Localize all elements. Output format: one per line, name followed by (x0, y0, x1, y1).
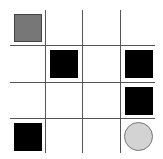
black-square-piece[interactable] (14, 123, 42, 151)
board-cell-r0-c1[interactable] (46, 10, 82, 46)
board-cell-r0-c2[interactable] (83, 10, 119, 46)
board-cell-r3-c1[interactable] (46, 119, 82, 155)
black-square-piece[interactable] (125, 87, 153, 115)
board-cell-r2-c2[interactable] (83, 83, 119, 119)
board-cell-r1-c0[interactable] (10, 46, 46, 82)
board-cell-r3-c3[interactable] (121, 119, 157, 155)
gray-circle-piece[interactable] (124, 122, 153, 151)
black-square-piece[interactable] (125, 50, 153, 78)
board-cell-r0-c3[interactable] (121, 10, 157, 46)
board-cell-r1-c3[interactable] (121, 46, 157, 82)
board-cell-r1-c2[interactable] (83, 46, 119, 82)
board-cell-r0-c0[interactable] (10, 10, 46, 46)
board-cell-r2-c0[interactable] (10, 83, 46, 119)
board-cell-r2-c1[interactable] (46, 83, 82, 119)
board-cell-r1-c1[interactable] (46, 46, 82, 82)
board-cell-r3-c2[interactable] (83, 119, 119, 155)
board-cell-r3-c0[interactable] (10, 119, 46, 155)
board-cell-r2-c3[interactable] (121, 83, 157, 119)
black-square-piece[interactable] (50, 50, 78, 78)
game-board (10, 10, 155, 153)
gray-square-piece[interactable] (14, 14, 42, 42)
